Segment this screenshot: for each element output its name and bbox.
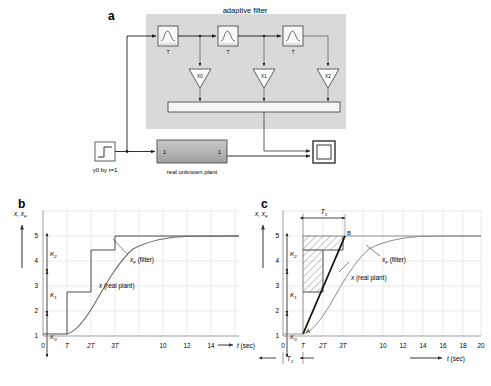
gain-block-K0-label: K0 <box>197 74 203 79</box>
step-source-block[interactable] <box>95 142 115 161</box>
gain-block-K0[interactable]: K0 <box>189 69 211 88</box>
svg-text:2T: 2T <box>86 342 96 349</box>
svg-text:2T: 2T <box>318 342 328 349</box>
chart-c-series-ramp <box>303 236 345 334</box>
tap-junction-1 <box>199 35 202 38</box>
chart-b-series-filter <box>43 236 239 334</box>
scope-block[interactable] <box>313 141 335 163</box>
plant-numerator-label: 1 <box>163 149 166 155</box>
chart-c-hatch-upper <box>303 236 343 250</box>
chart-c-yticks: 1 2 3 4 5 <box>275 232 279 339</box>
svg-text:12: 12 <box>183 342 191 349</box>
chart-c-series-plant-label: x (real plant) <box>350 274 387 282</box>
delay-block-3[interactable] <box>283 26 303 46</box>
svg-text:14: 14 <box>419 342 427 349</box>
chart-c-dimension-T1-top: T1 <box>303 208 345 236</box>
svg-text:3: 3 <box>34 282 38 289</box>
svg-text:2: 2 <box>275 307 279 314</box>
delay-block-2-label: T <box>227 50 230 55</box>
delay-block-1-label: T <box>167 50 170 55</box>
chart-c-dimension-T1-bottom: T1 <box>262 352 314 364</box>
summer-to-scope-line <box>264 112 310 151</box>
delay-block-2[interactable] <box>218 26 238 46</box>
svg-text:20: 20 <box>477 342 485 349</box>
chart-panel-c: x, xF 1 2 3 4 5 T1 K2 <box>254 208 485 364</box>
svg-text:10: 10 <box>159 342 167 349</box>
chart-c-leader-plant <box>339 262 349 272</box>
chart-b-grid <box>43 210 239 336</box>
chart-panel-b: x, xF 1 2 3 4 5 K2 K1 K0 <box>13 210 255 357</box>
chart-c-series-staircase <box>283 236 481 334</box>
chart-c-point-A-label: A <box>306 328 310 334</box>
svg-text:10: 10 <box>379 342 387 349</box>
transfer-function-icon <box>221 31 235 41</box>
chart-c-grid <box>283 210 481 336</box>
svg-text:4: 4 <box>275 257 279 264</box>
chart-b-yticks: 1 2 3 4 5 <box>34 232 38 339</box>
svg-text:16: 16 <box>439 342 447 349</box>
figure-root: a b c adaptive filter <box>0 0 491 386</box>
source-junction <box>126 150 129 153</box>
chart-c-xlabel: t (sec) <box>447 355 465 363</box>
tap3-to-gain2-line <box>303 36 328 66</box>
chart-b-label-K2: K2 <box>50 250 57 259</box>
chart-b-label-K1: K1 <box>50 291 57 300</box>
chart-b-leader-filter <box>113 239 128 255</box>
panel-letter-b: b <box>18 198 25 210</box>
adaptive-filter-container <box>146 14 346 129</box>
figure-canvas: T T T <box>0 0 491 386</box>
gain-block-K2-label: K2 <box>325 74 331 79</box>
scope-icon <box>317 145 331 159</box>
plant-denominator-label: 1 <box>218 149 221 155</box>
svg-text:T: T <box>301 342 306 349</box>
adaptive-filter-title: adaptive filter <box>223 6 268 15</box>
gain-block-K1[interactable]: K1 <box>253 69 275 88</box>
svg-text:1: 1 <box>34 332 38 339</box>
svg-text:3T: 3T <box>339 342 348 349</box>
transfer-function-icon <box>286 31 300 41</box>
plant-label: real unknown plant <box>167 169 218 175</box>
step-signal-icon <box>98 147 112 157</box>
chart-c-xticks: 0 T 2T 3T 10 12 14 16 18 20 <box>281 342 485 349</box>
svg-text:5: 5 <box>34 232 38 239</box>
chart-b-label-K0: K0 <box>50 333 57 342</box>
delay-block-1[interactable] <box>158 26 178 46</box>
svg-text:T: T <box>65 342 70 349</box>
chart-c-label-K1: K1 <box>290 291 297 300</box>
svg-text:1: 1 <box>275 332 279 339</box>
chart-b-series-filter-label: xF (filter) <box>129 256 154 265</box>
chart-c-label-K0: K0 <box>290 333 297 342</box>
chart-c-label-K2: K2 <box>290 250 297 259</box>
tap-junction-2 <box>263 35 266 38</box>
gain-block-K2[interactable]: K2 <box>317 69 339 88</box>
summation-block[interactable] <box>168 102 340 112</box>
svg-text:4: 4 <box>34 257 38 264</box>
svg-text:3T: 3T <box>111 342 120 349</box>
svg-text:12: 12 <box>399 342 407 349</box>
step-source-label: y0 by t=1 <box>93 167 118 173</box>
svg-text:0: 0 <box>41 342 45 349</box>
chart-c-ylabel: x, xF <box>254 210 268 219</box>
chart-c-series-plant <box>303 236 481 334</box>
chart-b-series-plant-label: x (real plant) <box>98 282 135 290</box>
svg-text:0: 0 <box>281 342 285 349</box>
gain-block-K1-label: K1 <box>261 74 267 79</box>
chart-c-hatch-lower <box>303 250 323 292</box>
panel-letter-a: a <box>108 10 115 22</box>
chart-b-series-plant <box>67 236 239 334</box>
svg-text:5: 5 <box>275 232 279 239</box>
chart-b-ylabel: x, xF <box>13 210 27 219</box>
delay-block-3-label: T <box>292 50 295 55</box>
chart-c-series-filter-label: xF (filter) <box>381 256 406 265</box>
chart-c-dimension-T1-top-label: T1 <box>321 208 328 217</box>
svg-text:3: 3 <box>275 282 279 289</box>
chart-c-leader-filter <box>366 245 380 256</box>
transfer-function-icon <box>161 31 175 41</box>
svg-text:18: 18 <box>459 342 467 349</box>
svg-text:14: 14 <box>207 342 215 349</box>
chart-c-dimension-T1-bottom-label: T1 <box>287 355 294 364</box>
chart-b-xticks: 0 T 2T 3T 10 12 14 <box>41 342 215 349</box>
plant-block[interactable]: 1 1 <box>157 140 227 163</box>
panel-letter-c: c <box>261 198 268 210</box>
chart-b-xlabel: t (sec) <box>237 342 255 350</box>
